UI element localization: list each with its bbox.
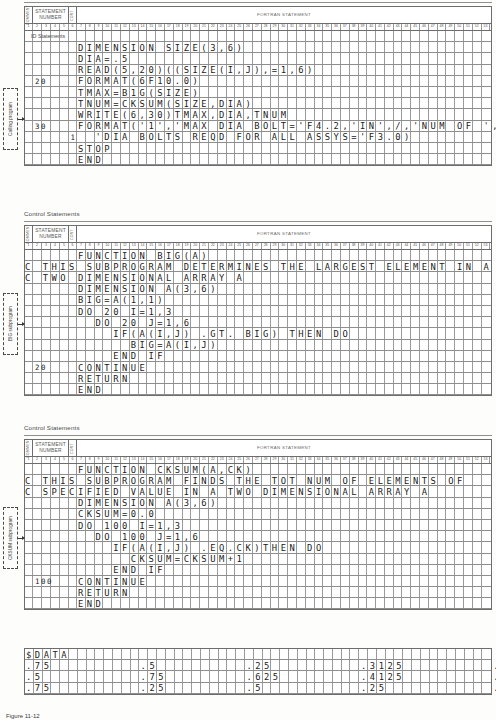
ruler-tick: 17 bbox=[165, 24, 174, 30]
handwritten-statement: RETURN bbox=[25, 587, 131, 598]
coding-form-block-2: COMMENTSTATEMENT NUMBERCONTFORTRAN STATE… bbox=[24, 225, 492, 396]
ruler-tick: 30 bbox=[279, 24, 288, 30]
ruler-tick: 42 bbox=[385, 24, 394, 30]
ruler-tick: 31 bbox=[288, 457, 297, 463]
continuation-marker: 1 bbox=[71, 132, 75, 143]
margin-annotation: BIG subprogram bbox=[3, 293, 18, 355]
ruler-tick: 49 bbox=[446, 24, 455, 30]
ruler-tick: 48 bbox=[438, 24, 447, 30]
ruler-tick: 47 bbox=[429, 243, 438, 249]
ruler-tick: 37 bbox=[341, 457, 350, 463]
handwritten-statement: END IF bbox=[25, 351, 166, 362]
ruler-tick: 42 bbox=[385, 243, 394, 249]
margin-arrow bbox=[18, 119, 24, 120]
handwritten-statement: C SPECIFIED VALUE IN A TWO DIMENSIONAL A… bbox=[25, 486, 431, 497]
handwritten-statement: C THIS SUBPROGRAM FINDS THE TOT NUM OF E… bbox=[25, 475, 466, 486]
ruler-tick: 23 bbox=[218, 243, 227, 249]
handwritten-statement: FUNCTION BIG(A) bbox=[25, 250, 210, 261]
form-header: COMMENTSTATEMENT NUMBERCONTFORTRAN STATE… bbox=[25, 7, 491, 24]
ruler-tick: 14 bbox=[139, 243, 148, 249]
ruler-tick: 2 bbox=[33, 24, 42, 30]
ruler-tick: 13 bbox=[130, 243, 139, 249]
header-cont-label: CONT bbox=[70, 443, 74, 454]
ruler-tick: 40 bbox=[367, 243, 376, 249]
ruler-tick: 2 bbox=[33, 457, 42, 463]
ruler-tick: 47 bbox=[429, 24, 438, 30]
ruler-tick: 52 bbox=[473, 457, 482, 463]
ruler-tick: 11 bbox=[112, 243, 121, 249]
handwritten-statement: TMAX=B1G(SIZE) bbox=[25, 87, 201, 98]
ruler-tick: 38 bbox=[350, 457, 359, 463]
ruler-tick: 7 bbox=[77, 457, 86, 463]
ruler-tick: 46 bbox=[420, 24, 429, 30]
handwritten-statement: 'DIA BOLTS REQD FOR ALL ASSYS='F3.0) bbox=[25, 132, 413, 143]
handwritten-statement: END bbox=[25, 598, 104, 609]
handwritten-statement: DO 20 I=1,3 bbox=[25, 306, 175, 317]
ruler-tick: 28 bbox=[262, 457, 271, 463]
handwritten-statement: RETURN bbox=[25, 373, 131, 384]
handwritten-statement: DO 20 J=1,6 bbox=[25, 317, 193, 328]
ruler-tick: 27 bbox=[253, 24, 262, 30]
ruler-tick: 35 bbox=[323, 243, 332, 249]
ruler-tick: 26 bbox=[244, 457, 253, 463]
data-card-text: .75 .25 .5 .25 .425 .5 bbox=[26, 683, 496, 694]
ruler-tick: 39 bbox=[359, 457, 368, 463]
header-statement-number: STATEMENT NUMBER bbox=[33, 440, 69, 456]
ruler-tick: 28 bbox=[262, 243, 271, 249]
ruler-tick: 29 bbox=[271, 457, 280, 463]
ruler-tick: 29 bbox=[271, 24, 280, 30]
ruler-tick: 43 bbox=[394, 243, 403, 249]
form-header: COMMENTSTATEMENT NUMBERCONTFORTRAN STATE… bbox=[25, 226, 491, 243]
rule-3 bbox=[24, 435, 492, 436]
data-card-text: .75 .5 .25 .3125 .5 .625 bbox=[26, 660, 496, 671]
ruler-tick: 51 bbox=[464, 457, 473, 463]
header-statement-number: STATEMENT NUMBER bbox=[33, 7, 69, 23]
ruler-tick: 15 bbox=[147, 457, 156, 463]
ruler-tick: 26 bbox=[244, 24, 253, 30]
ruler-tick: 3 bbox=[42, 457, 51, 463]
handwritten-statement: DO 100 I=1,3 bbox=[25, 520, 184, 531]
ruler-tick: 52 bbox=[473, 24, 482, 30]
ruler-tick: 26 bbox=[244, 243, 253, 249]
handwritten-statement: STOP bbox=[25, 143, 113, 154]
ruler-tick: 33 bbox=[306, 24, 315, 30]
ruler-tick: 39 bbox=[359, 24, 368, 30]
section-label-3: Control Statements bbox=[24, 424, 80, 431]
ruler-tick: 21 bbox=[200, 24, 209, 30]
rule-2 bbox=[24, 221, 492, 222]
ruler-tick: 16 bbox=[156, 243, 165, 249]
ruler-tick: 36 bbox=[332, 243, 341, 249]
ruler-tick: 15 bbox=[147, 243, 156, 249]
ruler-tick: 44 bbox=[402, 457, 411, 463]
ruler-tick: 18 bbox=[174, 243, 183, 249]
statement-number-value: 100 bbox=[35, 576, 53, 587]
margin-arrow bbox=[18, 324, 24, 325]
ruler-tick: 52 bbox=[473, 243, 482, 249]
form-body: FUNCTION BIG(A)C THIS SUBPROGRAM DETERMI… bbox=[25, 250, 491, 395]
margin-annotation-label: Calling program bbox=[8, 102, 13, 136]
ruler-tick: 5 bbox=[60, 24, 69, 30]
ruler-tick: 36 bbox=[332, 457, 341, 463]
ruler-tick: 53 bbox=[482, 457, 491, 463]
ruler-tick: 36 bbox=[332, 24, 341, 30]
handwritten-statement: CKSUM=0.0 bbox=[25, 509, 157, 520]
handwritten-statement: DIMENSION A(3,6) bbox=[25, 498, 219, 509]
margin-annotation-label: BIG subprogram bbox=[8, 306, 13, 341]
ruler-tick: 20 bbox=[191, 24, 200, 30]
ruler-tick: 40 bbox=[367, 24, 376, 30]
header-cont-col: CONT bbox=[69, 440, 77, 456]
ruler-tick: 34 bbox=[315, 457, 324, 463]
header-comment-label: COMMENT bbox=[26, 438, 30, 458]
margin-annotation: CKSUM subprogram bbox=[3, 507, 18, 569]
handwritten-statement: WRITE(6,30)TMAX,DIA,TNUM bbox=[25, 109, 290, 120]
ruler-tick: 28 bbox=[262, 24, 271, 30]
ruler-tick: 11 bbox=[112, 457, 121, 463]
section-label-2: Control Statements bbox=[24, 210, 80, 217]
ruler-tick: 37 bbox=[341, 243, 350, 249]
handwritten-statement: IF(A(I,J) .EQ.CK)THEN DO bbox=[25, 542, 325, 553]
ruler-tick: 9 bbox=[95, 243, 104, 249]
ruler-tick: 6 bbox=[69, 243, 77, 249]
ruler-tick: 32 bbox=[297, 24, 306, 30]
header-statement-number: STATEMENT NUMBER bbox=[33, 226, 69, 242]
column-ruler: 1234567891011121314151617181920212223242… bbox=[25, 457, 491, 464]
